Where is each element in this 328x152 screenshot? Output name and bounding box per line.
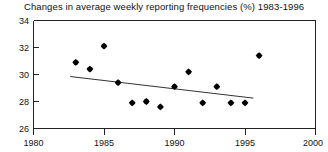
x-tick-label-1990: 1990 [164, 138, 184, 148]
data-point [143, 98, 150, 105]
data-point [228, 99, 235, 106]
y-tick-label-34: 34 [19, 16, 29, 26]
data-point [72, 59, 79, 66]
y-axis-ticks: 34 32 30 28 26 [19, 16, 39, 134]
data-point [242, 99, 249, 106]
y-tick-label-26: 26 [19, 124, 29, 134]
x-tick-label-2000: 2000 [303, 138, 323, 148]
trend-line [70, 77, 253, 99]
data-point [185, 68, 192, 75]
axis-frame [34, 21, 316, 129]
chart-container: Changes in average weekly reporting freq… [0, 0, 328, 152]
y-tick-label-32: 32 [19, 43, 29, 53]
y-tick-label-30: 30 [19, 70, 29, 80]
data-point [199, 99, 206, 106]
data-point [213, 83, 220, 90]
x-tick-label-1995: 1995 [235, 138, 255, 148]
data-point-group [72, 43, 262, 111]
chart-plot-area: 34 32 30 28 26 1980 1985 1990 1995 2000 [0, 0, 328, 152]
data-point [129, 99, 136, 106]
data-point [256, 52, 263, 59]
x-tick-label-1985: 1985 [94, 138, 114, 148]
data-point [157, 104, 164, 111]
x-axis-ticks: 1980 1985 1990 1995 2000 [23, 129, 323, 149]
x-tick-label-1980: 1980 [23, 138, 43, 148]
data-point [115, 79, 122, 86]
data-point [101, 43, 108, 50]
y-tick-label-28: 28 [19, 97, 29, 107]
data-point [87, 66, 94, 73]
